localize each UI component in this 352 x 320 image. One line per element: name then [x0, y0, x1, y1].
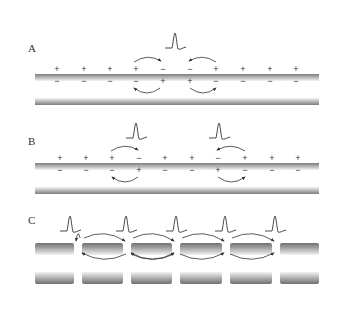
plus-charge-outside: +	[54, 64, 59, 74]
minus-charge-inside: −	[242, 165, 247, 175]
minus-charge-inside: −	[81, 76, 86, 86]
action-potential-icon	[166, 216, 187, 232]
action-potential-icon	[126, 123, 147, 139]
plus-charge-inside: +	[160, 76, 165, 86]
current-arrow-icon	[189, 57, 216, 62]
plus-charge-outside: +	[133, 64, 138, 74]
plus-charge-inside: +	[187, 76, 192, 86]
action-potential-icon	[116, 216, 137, 232]
plus-charge-outside: +	[295, 153, 300, 163]
minus-charge-inside: −	[189, 165, 194, 175]
action-potential-icon	[265, 216, 286, 232]
axon-membrane-top	[35, 74, 319, 81]
plus-charge-outside: +	[213, 64, 218, 74]
plus-charge-outside: +	[107, 64, 112, 74]
plus-charge-outside: +	[242, 153, 247, 163]
current-arrow-icon	[182, 234, 224, 241]
panel-label: A	[28, 42, 36, 54]
minus-charge-inside: −	[240, 76, 245, 86]
minus-charge-inside: −	[162, 165, 167, 175]
minus-charge-inside: −	[267, 76, 272, 86]
minus-charge-inside: −	[295, 165, 300, 175]
plus-charge-outside: +	[57, 153, 62, 163]
panel-label: C	[28, 214, 35, 226]
minus-charge-inside: −	[57, 165, 62, 175]
minus-charge-inside: −	[54, 76, 59, 86]
minus-charge-inside: −	[83, 165, 88, 175]
panel-a: A++++−−++++−−−−++−−−−	[28, 33, 319, 105]
plus-charge-outside: +	[269, 153, 274, 163]
plus-charge-outside: +	[267, 64, 272, 74]
current-arrow-icon	[134, 88, 160, 93]
minus-charge-inside: −	[107, 76, 112, 86]
current-arrow-icon	[133, 234, 174, 241]
current-arrow-icon	[218, 177, 245, 182]
minus-charge-outside: −	[187, 64, 192, 74]
axon-membrane-bottom	[35, 98, 319, 105]
minus-charge-outside: −	[215, 153, 220, 163]
action-potential-icon	[209, 123, 230, 139]
plus-charge-outside: +	[189, 153, 194, 163]
conduction-diagram: A++++−−++++−−−−++−−−− B+++−++−+++−−−+−−+…	[0, 0, 352, 320]
action-potential-icon	[60, 216, 81, 232]
minus-charge-inside: −	[269, 165, 274, 175]
current-arrow-icon	[190, 88, 216, 93]
panel-label: B	[28, 135, 35, 147]
minus-charge-outside: −	[160, 64, 165, 74]
minus-charge-outside: −	[136, 153, 141, 163]
minus-charge-inside: −	[109, 165, 114, 175]
panel-b: B+++−++−+++−−−+−−+−−−	[28, 123, 319, 194]
panel-c: C	[28, 214, 319, 284]
current-arrow-icon	[217, 146, 245, 151]
action-potential-icon	[165, 33, 186, 49]
plus-charge-inside: +	[136, 165, 141, 175]
axon-membrane-bottom	[35, 187, 319, 194]
current-arrow-icon	[111, 146, 138, 151]
current-arrow-icon	[112, 177, 138, 182]
minus-charge-inside: −	[293, 76, 298, 86]
action-potential-icon	[215, 216, 236, 232]
minus-charge-inside: −	[133, 76, 138, 86]
current-arrow-icon	[84, 234, 125, 241]
current-arrow-icon	[134, 57, 161, 62]
current-arrow-icon	[232, 234, 274, 241]
plus-charge-outside: +	[240, 64, 245, 74]
plus-charge-outside: +	[81, 64, 86, 74]
plus-charge-outside: +	[109, 153, 114, 163]
current-arrow-icon	[76, 234, 80, 241]
axon-membrane-top	[35, 163, 319, 170]
plus-charge-inside: +	[215, 165, 220, 175]
plus-charge-outside: +	[293, 64, 298, 74]
plus-charge-outside: +	[162, 153, 167, 163]
plus-charge-outside: +	[83, 153, 88, 163]
minus-charge-inside: −	[213, 76, 218, 86]
